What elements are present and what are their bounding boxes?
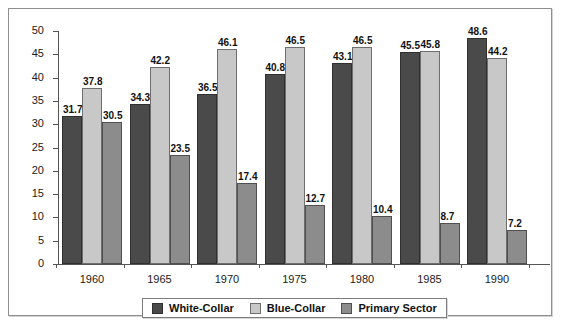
plot-area: 31.737.830.534.342.223.536.546.117.440.8… xyxy=(58,31,549,264)
bar-white-collar-1975[interactable] xyxy=(265,74,285,264)
y-axis-tick-label: 50 xyxy=(9,24,44,37)
legend-swatch-icon xyxy=(250,303,261,314)
bar-white-collar-1960[interactable] xyxy=(62,116,82,264)
bar-group: 40.846.512.7 xyxy=(265,31,325,264)
x-axis-tick xyxy=(259,264,260,268)
bar-primary-sector-1985[interactable] xyxy=(440,223,460,264)
bar-value-label: 12.7 xyxy=(306,193,325,204)
x-axis-tick xyxy=(529,264,530,268)
bar-white-collar-1985[interactable] xyxy=(400,52,420,264)
x-axis-tick xyxy=(56,264,57,268)
chart-screenshot: 05101520253035404550 31.737.830.534.342.… xyxy=(0,0,563,327)
bar-value-label: 44.2 xyxy=(488,46,507,57)
bar-blue-collar-1960[interactable] xyxy=(82,88,102,264)
legend-label: Blue-Collar xyxy=(267,302,326,315)
bar-value-label: 30.5 xyxy=(103,110,122,121)
bar-white-collar-1970[interactable] xyxy=(197,94,217,264)
bar-primary-sector-1990[interactable] xyxy=(507,230,527,264)
bar-group: 48.644.27.2 xyxy=(467,31,527,264)
bar-blue-collar-1970[interactable] xyxy=(217,49,237,264)
bar-value-label: 23.5 xyxy=(171,143,190,154)
x-axis-tick xyxy=(124,264,125,268)
bar-value-label: 46.1 xyxy=(218,37,237,48)
bar-primary-sector-1965[interactable] xyxy=(170,155,190,265)
bar-value-label: 45.5 xyxy=(401,40,420,51)
x-axis-tick xyxy=(394,264,395,268)
bar-value-label: 48.6 xyxy=(468,26,487,37)
legend-swatch-icon xyxy=(152,303,163,314)
bar-group: 31.737.830.5 xyxy=(62,31,122,264)
bar-primary-sector-1970[interactable] xyxy=(237,183,257,264)
bar-value-label: 17.4 xyxy=(238,171,257,182)
bar-group: 36.546.117.4 xyxy=(197,31,257,264)
bar-blue-collar-1965[interactable] xyxy=(150,67,170,264)
x-axis-line xyxy=(58,264,550,265)
y-axis-tick-label: 10 xyxy=(9,210,44,223)
y-axis-tick-label: 5 xyxy=(9,234,44,247)
bar-primary-sector-1975[interactable] xyxy=(305,205,325,264)
y-axis-tick-label: 15 xyxy=(9,187,44,200)
bar-value-label: 42.2 xyxy=(151,55,170,66)
x-axis-label-1990: 1990 xyxy=(457,273,537,286)
bar-group: 34.342.223.5 xyxy=(130,31,190,264)
bar-group: 43.146.510.4 xyxy=(332,31,392,264)
legend-label: Primary Sector xyxy=(358,302,436,315)
legend-label: White-Collar xyxy=(169,302,234,315)
bar-value-label: 34.3 xyxy=(131,92,150,103)
chart-frame: 05101520253035404550 31.737.830.534.342.… xyxy=(8,8,552,316)
x-axis-tick xyxy=(461,264,462,268)
bar-value-label: 37.8 xyxy=(83,76,102,87)
legend-item-primary-sector[interactable]: Primary Sector xyxy=(341,302,436,315)
y-axis-tick-label: 45 xyxy=(9,47,44,60)
bar-primary-sector-1980[interactable] xyxy=(372,216,392,264)
bar-white-collar-1965[interactable] xyxy=(130,104,150,264)
x-axis-tick xyxy=(326,264,327,268)
y-axis-tick-label: 40 xyxy=(9,71,44,84)
x-axis-tick xyxy=(191,264,192,268)
bar-value-label: 46.5 xyxy=(353,35,372,46)
bar-value-label: 46.5 xyxy=(286,35,305,46)
bar-value-label: 8.7 xyxy=(441,211,455,222)
bar-blue-collar-1985[interactable] xyxy=(420,51,440,264)
chart-legend: White-CollarBlue-CollarPrimary Sector xyxy=(142,298,447,318)
bar-value-label: 45.8 xyxy=(421,39,440,50)
legend-item-white-collar[interactable]: White-Collar xyxy=(152,302,234,315)
bar-primary-sector-1960[interactable] xyxy=(102,122,122,264)
y-axis-tick-label: 25 xyxy=(9,141,44,154)
y-axis-tick-label: 0 xyxy=(9,257,44,270)
legend-item-blue-collar[interactable]: Blue-Collar xyxy=(250,302,326,315)
legend-swatch-icon xyxy=(341,303,352,314)
bar-value-label: 7.2 xyxy=(508,218,522,229)
bar-value-label: 36.5 xyxy=(198,82,217,93)
bar-blue-collar-1980[interactable] xyxy=(352,47,372,264)
bar-value-label: 10.4 xyxy=(373,204,392,215)
bar-white-collar-1990[interactable] xyxy=(467,38,487,264)
bar-group: 45.545.88.7 xyxy=(400,31,460,264)
bar-white-collar-1980[interactable] xyxy=(332,63,352,264)
y-axis-tick-label: 35 xyxy=(9,94,44,107)
bar-value-label: 40.8 xyxy=(266,62,285,73)
bar-value-label: 43.1 xyxy=(333,51,352,62)
bar-value-label: 31.7 xyxy=(63,104,82,115)
bar-blue-collar-1990[interactable] xyxy=(487,58,507,264)
y-axis-tick-label: 20 xyxy=(9,164,44,177)
y-axis-tick-label: 30 xyxy=(9,117,44,130)
bar-blue-collar-1975[interactable] xyxy=(285,47,305,264)
